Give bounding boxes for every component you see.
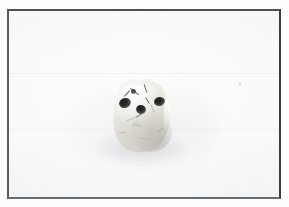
photograph-frame [7,9,281,199]
dust-speck-icon [239,82,241,85]
specimen-edge-glint [164,100,169,130]
screenshot-viewport [0,0,289,207]
specimen [108,78,174,154]
